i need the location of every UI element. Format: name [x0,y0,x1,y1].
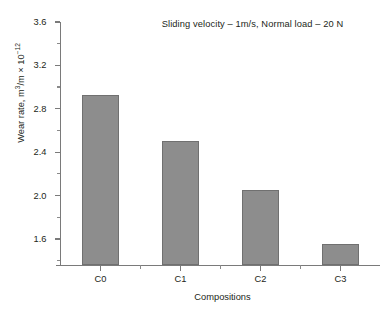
y-tick-label: 3.6 [34,17,47,27]
x-tick-minor [300,265,301,269]
y-axis-label-part1: Wear rate, m [16,89,26,143]
y-tick-major: 1.6 [55,238,61,239]
x-tick-major [180,265,181,271]
bar-c0 [82,95,119,265]
x-tick-major [260,265,261,271]
x-axis-label: Compositions [60,292,385,302]
bar-c1 [162,141,199,265]
y-tick-minor [57,86,61,87]
x-tick-label-c1: C1 [175,274,187,284]
y-tick-label: 1.6 [34,234,47,244]
bar-chart-figure: Sliding velocity – 1m/s, Normal load – 2… [0,0,390,320]
x-tick-minor [140,265,141,269]
x-tick-major [340,265,341,271]
bar-c3 [322,244,359,265]
x-axis-line [56,265,380,266]
bar-c2 [242,190,279,265]
y-tick-major: 2.4 [55,152,61,153]
y-tick-minor [57,217,61,218]
y-axis-line [60,22,61,265]
y-tick-minor [57,43,61,44]
y-tick-label: 2.0 [34,191,47,201]
x-tick-major [100,265,101,271]
y-tick-label: 2.8 [34,104,47,114]
y-tick-label: 3.2 [34,60,47,70]
y-tick-minor [57,173,61,174]
x-tick-label-c0: C0 [95,274,107,284]
y-tick-major: 2.0 [55,195,61,196]
y-tick-major: 3.6 [55,21,61,22]
x-tick-label-c2: C2 [255,274,267,284]
plot-area: 3.63.22.82.42.01.6 C0C1C2C3 [60,22,380,265]
y-axis-label-exponent-3: 3 [14,86,21,90]
y-tick-minor [57,130,61,131]
y-axis-label-part2: /m × 10 [16,54,26,85]
y-tick-minor [57,260,61,261]
y-tick-label: 2.4 [34,147,47,157]
y-tick-major: 2.8 [55,108,61,109]
x-tick-minor [220,265,221,269]
y-tick-major: 3.2 [55,65,61,66]
x-tick-label-c3: C3 [335,274,347,284]
y-axis-label-exponent-minus12: −12 [14,43,21,54]
y-axis-label-text: Wear rate, m3/m × 10−12 [16,43,26,143]
y-axis-label: Wear rate, m3/m × 10−12 [10,33,26,153]
